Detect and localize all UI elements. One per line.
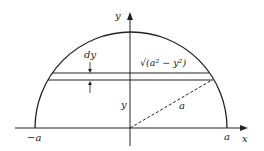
dy-down-arrowhead-icon	[88, 69, 92, 73]
half-width-label: √(a² − y²)	[140, 57, 186, 68]
strip-height-label: y	[120, 99, 127, 110]
x-axis-arrow-icon	[240, 125, 248, 131]
y-axis-arrow-icon	[127, 12, 133, 20]
dy-up-arrowhead-icon	[88, 81, 92, 85]
x-left-tick-label: −a	[27, 132, 41, 143]
x-right-tick-label: a	[224, 131, 230, 142]
dy-label: dy	[84, 49, 96, 60]
radius-label: a	[179, 100, 185, 111]
y-axis-label: y	[114, 10, 121, 21]
semicircle-diagram: y dy √(a² − y²) y a −a a x	[0, 0, 264, 151]
radius-line	[130, 80, 212, 128]
x-axis-label: x	[242, 133, 248, 144]
